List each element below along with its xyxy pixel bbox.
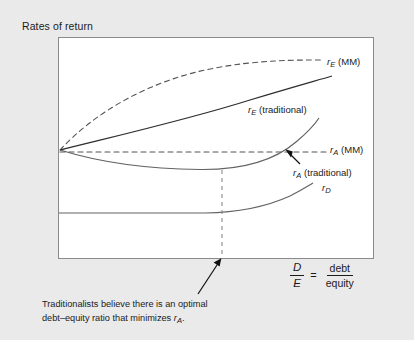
figure-caption-line-2: debt–equity ratio that minimizes rA.	[42, 311, 208, 326]
x-axis-label-de-denominator: E	[290, 276, 304, 290]
x-axis-label: D E = debt equity	[290, 261, 357, 290]
figure-caption-line-1: Traditionalists believe there is an opti…	[42, 297, 208, 311]
curve-label-rd-subscript: D	[325, 186, 331, 195]
curve-label-ra-mm-rest: (MM)	[338, 144, 363, 155]
figure-caption: Traditionalists believe there is an opti…	[42, 297, 208, 327]
caption-callout-arrow	[198, 258, 221, 294]
curve-label-re-traditional-rest: (traditional)	[256, 104, 306, 115]
x-axis-label-debt-equity-fraction: debt equity	[323, 262, 357, 289]
x-axis-label-equals: =	[304, 269, 322, 283]
x-axis-label-de-fraction: D E	[290, 261, 304, 290]
curve-label-re-mm: rE (MM)	[327, 56, 360, 69]
curve-label-ra-traditional: rA (traditional)	[293, 167, 352, 180]
plot-area-background	[59, 38, 374, 259]
x-axis-label-equity-denominator: equity	[323, 276, 357, 289]
curve-label-ra-mm: rA (MM)	[330, 144, 363, 157]
x-axis-label-debt-numerator: debt	[327, 262, 353, 276]
curve-label-ra-traditional-rest: (traditional)	[301, 167, 351, 178]
figure-caption-line-2-pre: debt–equity ratio that minimizes	[42, 313, 174, 323]
curve-label-rd: rD	[322, 182, 331, 195]
figure-caption-line-2-post: .	[182, 313, 185, 323]
x-axis-label-de-numerator: D	[290, 261, 304, 276]
curve-label-re-traditional: rE (traditional)	[248, 104, 307, 117]
figure-container: Rates of return rE (MM) rE (traditional)…	[0, 0, 414, 340]
curve-label-re-mm-rest: (MM)	[335, 56, 360, 67]
